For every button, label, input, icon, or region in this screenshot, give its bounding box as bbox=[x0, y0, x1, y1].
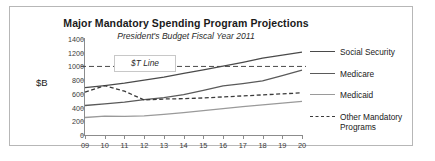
x-tick-mark-20 bbox=[302, 136, 303, 139]
x-tick-mark-15 bbox=[203, 136, 204, 139]
x-tick-mark-13 bbox=[164, 136, 165, 139]
trillion-line-annotation: $T Line bbox=[114, 55, 176, 72]
series-lines bbox=[85, 39, 302, 135]
legend-item-other-mandatory-programs: Other Mandatory Programs bbox=[310, 112, 422, 133]
x-tick-mark-16 bbox=[223, 136, 224, 139]
x-tick-mark-12 bbox=[144, 136, 145, 139]
series-line-medicare bbox=[85, 70, 302, 105]
legend-label: Other Mandatory Programs bbox=[340, 112, 402, 133]
plot-area bbox=[85, 39, 302, 135]
x-tick-mark-11 bbox=[124, 136, 125, 139]
chart-title: Major Mandatory Spending Program Project… bbox=[62, 17, 310, 29]
legend-swatch-solid bbox=[310, 73, 335, 74]
x-tick-11: 11 bbox=[121, 141, 129, 150]
x-tick-16: 16 bbox=[219, 141, 227, 150]
x-tick-20: 20 bbox=[298, 141, 306, 150]
x-tick-mark-10 bbox=[105, 136, 106, 139]
x-tick-mark-14 bbox=[184, 136, 185, 139]
x-axis-tick-labels: 091011121314151617181920 bbox=[85, 136, 302, 152]
legend-label: Social Security bbox=[340, 47, 395, 57]
legend-item-medicare: Medicare bbox=[310, 69, 422, 80]
series-line-medicaid bbox=[85, 101, 302, 117]
x-tick-15: 15 bbox=[199, 141, 207, 150]
x-tick-18: 18 bbox=[258, 141, 266, 150]
chart-frame: Major Mandatory Spending Program Project… bbox=[9, 6, 413, 146]
x-tick-10: 10 bbox=[101, 141, 109, 150]
legend-item-social-security: Social Security bbox=[310, 47, 422, 58]
legend-swatch-solid bbox=[310, 51, 335, 52]
x-tick-14: 14 bbox=[180, 141, 188, 150]
x-tick-09: 09 bbox=[81, 141, 89, 150]
legend-label: Medicaid bbox=[340, 90, 373, 100]
x-tick-12: 12 bbox=[140, 141, 148, 150]
trillion-line-label: $T Line bbox=[115, 56, 175, 71]
x-tick-mark-17 bbox=[243, 136, 244, 139]
y-axis-label: $B bbox=[36, 77, 48, 88]
x-tick-19: 19 bbox=[278, 141, 286, 150]
chart-legend: Social SecurityMedicareMedicaidOther Man… bbox=[310, 47, 422, 144]
legend-swatch-solid bbox=[310, 94, 335, 95]
x-tick-mark-18 bbox=[263, 136, 264, 139]
x-tick-17: 17 bbox=[239, 141, 247, 150]
x-tick-mark-19 bbox=[282, 136, 283, 139]
legend-item-medicaid: Medicaid bbox=[310, 90, 422, 101]
legend-swatch-dashed bbox=[310, 116, 335, 117]
x-tick-13: 13 bbox=[160, 141, 168, 150]
legend-label: Medicare bbox=[340, 69, 374, 79]
x-tick-mark-09 bbox=[85, 136, 86, 139]
